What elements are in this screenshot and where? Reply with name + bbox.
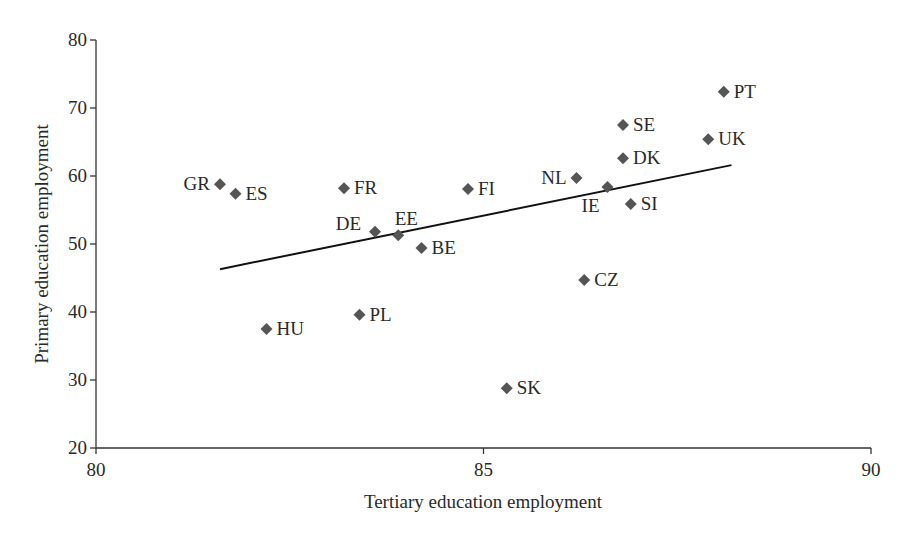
point-label: UK xyxy=(718,128,746,149)
diamond-marker-icon xyxy=(416,242,428,254)
data-point-fr: FR xyxy=(338,177,378,198)
data-point-fi: FI xyxy=(462,178,495,199)
point-label: SK xyxy=(517,377,542,398)
data-point-hu: HU xyxy=(261,318,305,339)
diamond-marker-icon xyxy=(625,198,637,210)
diamond-marker-icon xyxy=(571,172,583,184)
diamond-marker-icon xyxy=(261,323,273,335)
y-tick-label: 20 xyxy=(68,437,87,458)
diamond-marker-icon xyxy=(214,178,226,190)
data-point-si: SI xyxy=(625,193,658,214)
point-label: DE xyxy=(336,213,361,234)
data-point-pt: PT xyxy=(718,81,757,102)
point-label: IE xyxy=(582,195,600,216)
y-axis-title: Primary education employment xyxy=(31,124,52,364)
x-tick-label: 85 xyxy=(474,459,493,480)
trend-line xyxy=(220,165,732,269)
data-point-es: ES xyxy=(230,183,268,204)
diamond-marker-icon xyxy=(702,133,714,145)
point-label: DK xyxy=(633,147,661,168)
diamond-marker-icon xyxy=(617,152,629,164)
diamond-marker-icon xyxy=(392,229,404,241)
x-axis-title: Tertiary education employment xyxy=(364,491,603,512)
diamond-marker-icon xyxy=(462,183,474,195)
diamond-marker-icon xyxy=(578,274,590,286)
point-label: CZ xyxy=(594,269,618,290)
scatter-chart: GRESFRFIDEEEBEHUPLSKCZNLIESIDKSEUKPT 203… xyxy=(0,0,908,537)
data-point-gr: GR xyxy=(184,173,226,194)
data-point-de: DE xyxy=(336,213,381,238)
data-point-ie: IE xyxy=(582,181,614,216)
point-label: ES xyxy=(246,183,268,204)
data-point-se: SE xyxy=(617,114,655,135)
diamond-marker-icon xyxy=(501,382,513,394)
diamond-marker-icon xyxy=(718,86,730,98)
data-point-dk: DK xyxy=(617,147,661,168)
y-tick-label: 30 xyxy=(68,369,87,390)
diamond-marker-icon xyxy=(338,182,350,194)
y-axis: 20304050607080 xyxy=(68,29,96,458)
data-point-nl: NL xyxy=(541,167,582,188)
y-tick-label: 80 xyxy=(68,29,87,50)
y-tick-label: 60 xyxy=(68,165,87,186)
point-label: FI xyxy=(478,178,495,199)
data-point-uk: UK xyxy=(702,128,746,149)
x-axis: 808590 xyxy=(87,448,881,480)
diamond-marker-icon xyxy=(617,119,629,131)
point-label: GR xyxy=(184,173,211,194)
diamond-marker-icon xyxy=(354,309,366,321)
point-label: SE xyxy=(633,114,655,135)
plot-area: GRESFRFIDEEEBEHUPLSKCZNLIESIDKSEUKPT xyxy=(184,81,757,398)
point-label: SI xyxy=(641,193,658,214)
x-tick-label: 90 xyxy=(862,459,881,480)
point-label: PT xyxy=(734,81,757,102)
point-label: EE xyxy=(395,208,418,229)
x-tick-label: 80 xyxy=(87,459,106,480)
point-label: FR xyxy=(354,177,378,198)
point-label: BE xyxy=(432,237,456,258)
data-point-ee: EE xyxy=(392,208,418,241)
diamond-marker-icon xyxy=(230,188,242,200)
point-label: HU xyxy=(277,318,305,339)
point-label: PL xyxy=(370,304,392,325)
data-point-cz: CZ xyxy=(578,269,618,290)
data-point-be: BE xyxy=(416,237,456,258)
data-point-sk: SK xyxy=(501,377,542,398)
data-point-pl: PL xyxy=(354,304,392,325)
point-label: NL xyxy=(541,167,566,188)
y-tick-label: 50 xyxy=(68,233,87,254)
y-tick-label: 40 xyxy=(68,301,87,322)
y-tick-label: 70 xyxy=(68,97,87,118)
